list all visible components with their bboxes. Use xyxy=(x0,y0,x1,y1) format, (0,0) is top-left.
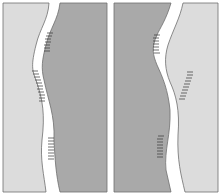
left-pair-light-block xyxy=(3,3,49,192)
right-pair-light-block xyxy=(166,3,218,192)
right-pair xyxy=(114,3,218,192)
left-pair xyxy=(3,3,107,192)
left-pair-dark-block xyxy=(42,3,107,192)
figure xyxy=(0,0,221,195)
right-pair-dark-block xyxy=(114,3,171,192)
